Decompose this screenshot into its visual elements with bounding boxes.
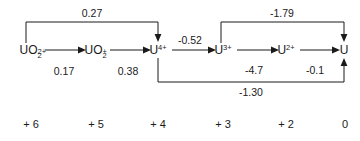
oxidation-state-plus6: + 6 — [23, 119, 39, 130]
oxidation-state-zero: 0 — [342, 119, 348, 130]
species-u-3plus: U3+ — [214, 44, 231, 56]
oxidation-state-plus3: + 3 — [215, 119, 231, 130]
chain-arrow-u3p-to-u2p — [237, 47, 279, 54]
bracket-u3p-to-u — [221, 22, 347, 43]
species-uo2-2plus: UO2+2 — [19, 44, 42, 56]
species-u-2plus: U2+ — [277, 44, 294, 56]
species-u-4plus: U4+ — [149, 44, 166, 56]
chain-arrow-uo2p-to-u4p — [110, 47, 151, 54]
potential-u3p-to-u2p: -4.7 — [245, 65, 263, 76]
species-uo2-plus: UO+2 — [84, 44, 107, 56]
potential-uo2p-to-u4p: 0.38 — [118, 66, 138, 77]
potential-u4p-to-u: -1.30 — [239, 87, 263, 98]
latimer-diagram: UO2+2 UO+2 U4+ U3+ U2+ U 0.27 -1.79 -0.5… — [0, 0, 360, 141]
potential-u4p-to-u3p: -0.52 — [178, 35, 202, 46]
potential-u3p-to-u: -1.79 — [270, 8, 294, 19]
potential-uo22p-to-uo2p: 0.17 — [54, 66, 74, 77]
oxidation-state-plus4: + 4 — [150, 119, 166, 130]
oxidation-state-plus5: + 5 — [88, 119, 104, 130]
potential-u2p-to-u: -0.1 — [306, 65, 324, 76]
oxidation-state-plus2: + 2 — [278, 119, 294, 130]
potential-uo22p-to-u4p: 0.27 — [82, 8, 102, 19]
bracket-uo22p-to-u4p — [26, 22, 161, 43]
species-u-metal: U — [340, 44, 349, 56]
chain-arrow-u4p-to-u3p — [172, 47, 216, 54]
chain-arrow-uo22p-to-uo2p — [45, 47, 86, 54]
chain-arrow-u2p-to-u — [300, 47, 340, 54]
